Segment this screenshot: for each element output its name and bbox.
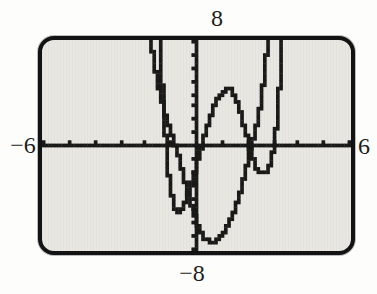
calculator-screen (38, 36, 355, 255)
plot-canvas (42, 40, 351, 251)
window-label-xmin: −6 (10, 133, 36, 157)
figure-root: 8 −8 −6 6 (0, 0, 377, 294)
window-label-ymax: 8 (211, 6, 223, 30)
window-label-xmax: 6 (358, 134, 370, 158)
window-label-ymin: −8 (179, 261, 205, 285)
